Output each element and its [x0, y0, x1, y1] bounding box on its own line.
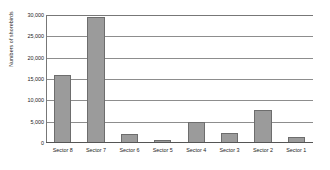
y-axis-tick-label: 25,000 — [2, 33, 44, 39]
x-axis-tick-label: Sector 8 — [53, 147, 73, 153]
x-axis-tick-labels: Sector 8Sector 7Sector 6Sector 5Sector 4… — [46, 147, 313, 161]
y-axis-tick-labels: 05,00010,00015,00020,00025,00030,000 — [0, 15, 44, 143]
x-axis-tick-label: Sector 5 — [153, 147, 173, 153]
y-axis-tick-label: 0 — [2, 140, 44, 146]
plot-frame — [46, 15, 313, 143]
x-axis-tick-label: Sector 3 — [220, 147, 240, 153]
y-axis-tick-label: 10,000 — [2, 97, 44, 103]
y-axis-tick-label: 30,000 — [2, 12, 44, 18]
x-axis-tick-label: Sector 1 — [286, 147, 306, 153]
x-axis-tick-label: Sector 7 — [86, 147, 106, 153]
y-axis-tick-label: 15,000 — [2, 76, 44, 82]
plot-area — [46, 15, 313, 143]
x-axis-tick-label: Sector 4 — [186, 147, 206, 153]
y-axis-tick-label: 20,000 — [2, 55, 44, 61]
x-axis-line — [46, 142, 313, 143]
y-axis-tick-label: 5,000 — [2, 119, 44, 125]
bar-chart-figure: Numbers of shorebirds 05,00010,00015,000… — [0, 0, 330, 170]
x-axis-tick-label: Sector 6 — [119, 147, 139, 153]
x-axis-tick-label: Sector 2 — [253, 147, 273, 153]
